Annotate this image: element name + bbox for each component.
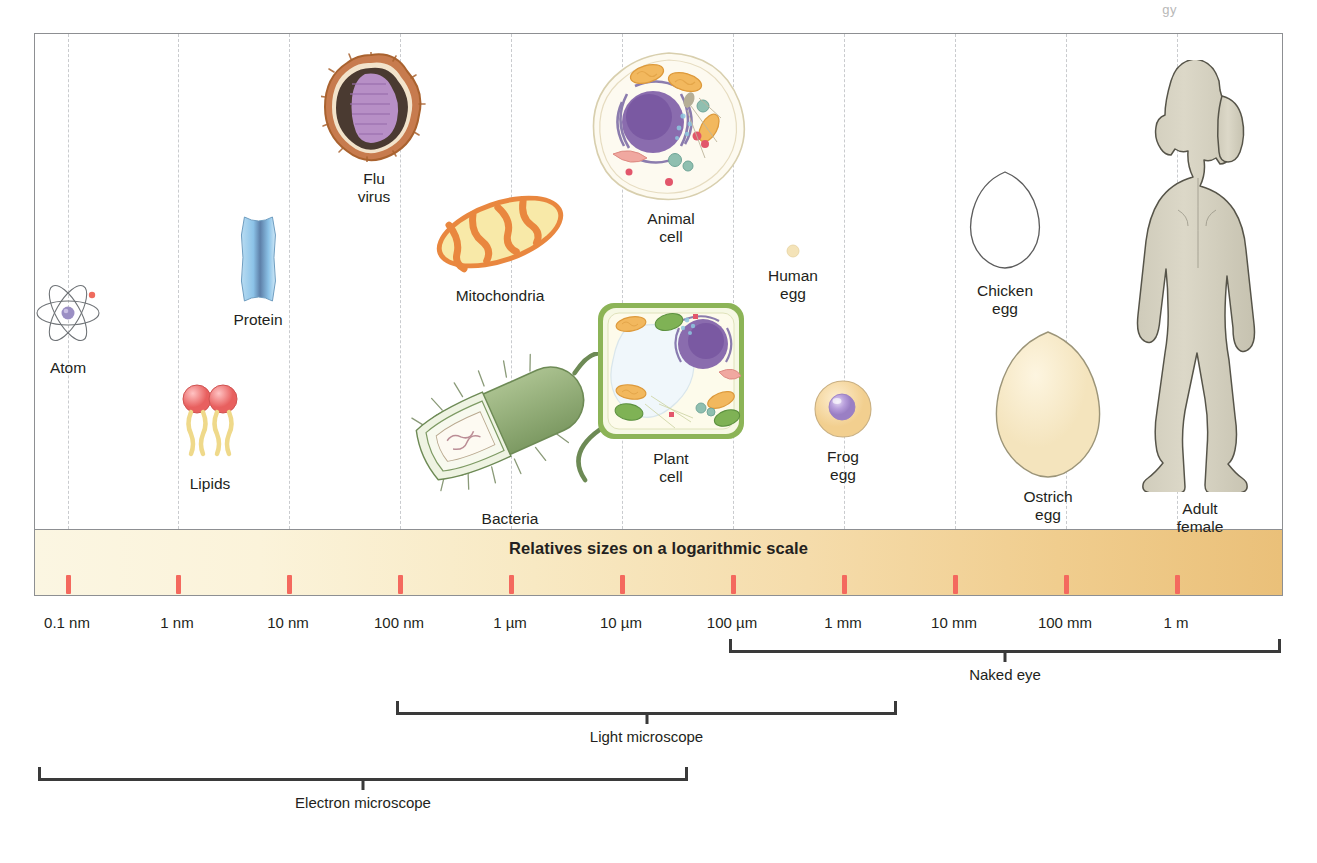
specimen-label: Plant cell bbox=[595, 450, 747, 487]
axis-label-5: 10 µm bbox=[600, 614, 642, 631]
axis-label-10: 1 m bbox=[1163, 614, 1188, 631]
scale-title: Relatives sizes on a logarithmic scale bbox=[35, 539, 1282, 558]
specimen-label: Protein bbox=[233, 311, 282, 329]
specimen-label: Lipids bbox=[178, 475, 242, 493]
gridline-10-nm bbox=[289, 34, 290, 529]
scale-tick-0 bbox=[66, 575, 71, 594]
bracket-cap-right bbox=[1278, 639, 1281, 650]
flu-virus-icon bbox=[321, 52, 427, 166]
axis-label-3: 100 nm bbox=[374, 614, 424, 631]
bracket-cap-left bbox=[38, 767, 41, 778]
specimen-chicken-egg: Chicken egg bbox=[968, 170, 1042, 319]
specimen-protein: Protein bbox=[233, 215, 282, 329]
bracket-stem bbox=[1004, 650, 1007, 662]
specimen-label: Mitochondria bbox=[430, 287, 570, 305]
axis-label-1: 1 nm bbox=[160, 614, 193, 631]
bracket-cap-left bbox=[729, 639, 732, 650]
scale-tick-9 bbox=[1064, 575, 1069, 594]
specimen-plant-cell: Plant cell bbox=[595, 300, 747, 487]
human-egg-icon bbox=[785, 243, 801, 263]
specimen-label: Adult female bbox=[1134, 500, 1266, 537]
specimen-mitochondria: Mitochondria bbox=[430, 185, 570, 305]
scale-tick-4 bbox=[509, 575, 514, 594]
bracket-label: Light microscope bbox=[590, 728, 703, 745]
ostrich-egg-icon bbox=[990, 330, 1106, 484]
bracket-cap-left bbox=[396, 701, 399, 712]
scale-tick-5 bbox=[620, 575, 625, 594]
specimen-animal-cell: Animal cell bbox=[591, 50, 751, 247]
specimen-bacteria: Bacteria bbox=[405, 352, 615, 528]
specimen-label: Human egg bbox=[768, 267, 818, 304]
specimen-label: Frog egg bbox=[812, 448, 874, 485]
scale-tick-1 bbox=[176, 575, 181, 594]
mitochondria-icon bbox=[430, 185, 570, 283]
scale-tick-2 bbox=[287, 575, 292, 594]
bracket-cap-right bbox=[894, 701, 897, 712]
bracket-label: Electron microscope bbox=[295, 794, 431, 811]
specimen-adult-female: Adult female bbox=[1134, 60, 1266, 537]
animal-cell-icon bbox=[591, 50, 751, 206]
specimen-atom: Atom bbox=[33, 275, 103, 377]
axis-label-4: 1 µm bbox=[493, 614, 527, 631]
specimen-lipids: Lipids bbox=[178, 383, 242, 493]
bracket-label: Naked eye bbox=[969, 666, 1041, 683]
gridline-10-mm bbox=[955, 34, 956, 529]
protein-icon bbox=[235, 215, 281, 307]
axis-label-2: 10 nm bbox=[267, 614, 309, 631]
frog-egg-icon bbox=[812, 378, 874, 444]
specimen-label: Flu virus bbox=[321, 170, 427, 207]
bracket-stem bbox=[362, 778, 365, 790]
specimen-label: Chicken egg bbox=[968, 282, 1042, 319]
page-header-fragment: gy bbox=[1162, 2, 1177, 17]
axis-label-8: 10 mm bbox=[931, 614, 977, 631]
specimen-label: Atom bbox=[33, 359, 103, 377]
scale-tick-7 bbox=[842, 575, 847, 594]
specimen-label: Bacteria bbox=[405, 510, 615, 528]
scale-tick-10 bbox=[1175, 575, 1180, 594]
axis-label-7: 1 mm bbox=[824, 614, 862, 631]
adult-female-icon bbox=[1134, 60, 1266, 496]
specimen-label: Ostrich egg bbox=[990, 488, 1106, 525]
bacteria-icon bbox=[405, 352, 615, 506]
lipids-icon bbox=[178, 383, 242, 471]
scale-tick-3 bbox=[398, 575, 403, 594]
scale-tick-8 bbox=[953, 575, 958, 594]
scale-tick-6 bbox=[731, 575, 736, 594]
axis-label-6: 100 µm bbox=[707, 614, 757, 631]
figure-root: gy Relatives sizes on a logarithmic scal… bbox=[0, 0, 1317, 863]
bracket-cap-right bbox=[685, 767, 688, 778]
plant-cell-icon bbox=[595, 300, 747, 446]
bracket-stem bbox=[645, 712, 648, 724]
specimen-label: Animal cell bbox=[591, 210, 751, 247]
specimen-frog-egg: Frog egg bbox=[812, 378, 874, 485]
specimen-flu-virus: Flu virus bbox=[321, 52, 427, 207]
chicken-egg-icon bbox=[968, 170, 1042, 278]
scale-bar: Relatives sizes on a logarithmic scale bbox=[34, 530, 1283, 596]
atom-icon bbox=[33, 275, 103, 355]
specimen-human-egg: Human egg bbox=[768, 243, 818, 304]
axis-label-9: 100 mm bbox=[1038, 614, 1092, 631]
specimen-ostrich-egg: Ostrich egg bbox=[990, 330, 1106, 525]
axis-label-0: 0.1 nm bbox=[44, 614, 90, 631]
